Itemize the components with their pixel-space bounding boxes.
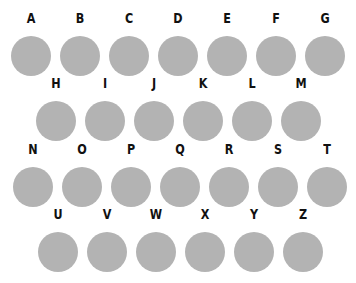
letter-label: M (285, 75, 317, 91)
letter-label: J (138, 75, 170, 91)
letter-circle-button[interactable] (85, 101, 125, 141)
letter-label: I (89, 75, 121, 91)
letter-circle-button[interactable] (185, 232, 225, 272)
letter-circle-button[interactable] (209, 167, 249, 207)
letter-circle-button[interactable] (136, 232, 176, 272)
letter-label: A (15, 10, 47, 26)
letter-label: V (91, 206, 123, 222)
letter-circle-button[interactable] (111, 167, 151, 207)
letter-label: L (236, 75, 268, 91)
letter-circle-button[interactable] (234, 232, 274, 272)
letter-label: Q (164, 141, 196, 157)
letter-circle-button[interactable] (232, 101, 272, 141)
letter-label: E (211, 10, 243, 26)
letter-label: G (309, 10, 341, 26)
letter-circle-button[interactable] (13, 167, 53, 207)
letter-label: H (40, 75, 72, 91)
letter-circle-button[interactable] (36, 101, 76, 141)
letter-label: Y (238, 206, 270, 222)
letter-circle-button[interactable] (62, 167, 102, 207)
letter-label: R (213, 141, 245, 157)
letter-label: F (260, 10, 292, 26)
letter-label: U (42, 206, 74, 222)
letter-circle-button[interactable] (134, 101, 174, 141)
letter-circle-button[interactable] (38, 232, 78, 272)
letter-circle-button[interactable] (109, 36, 149, 76)
letter-circle-button[interactable] (281, 101, 321, 141)
letter-circle-button[interactable] (160, 167, 200, 207)
letter-circle-button[interactable] (283, 232, 323, 272)
letter-circle-button[interactable] (60, 36, 100, 76)
letter-circle-button[interactable] (207, 36, 247, 76)
letter-label: P (115, 141, 147, 157)
letter-circle-button[interactable] (258, 167, 298, 207)
letter-circle-button[interactable] (158, 36, 198, 76)
letter-label: S (262, 141, 294, 157)
letter-circle-button[interactable] (183, 101, 223, 141)
letter-label: D (162, 10, 194, 26)
letter-label: C (113, 10, 145, 26)
letter-label: B (64, 10, 96, 26)
letter-circle-button[interactable] (305, 36, 345, 76)
letter-label: K (187, 75, 219, 91)
letter-circle-button[interactable] (87, 232, 127, 272)
letter-label: N (17, 141, 49, 157)
letter-label: Z (287, 206, 319, 222)
letter-label: X (189, 206, 221, 222)
letter-circle-button[interactable] (256, 36, 296, 76)
letter-circle-button[interactable] (307, 167, 347, 207)
letter-label: O (66, 141, 98, 157)
letter-label: W (140, 206, 172, 222)
letter-label: T (311, 141, 343, 157)
letter-circle-button[interactable] (11, 36, 51, 76)
